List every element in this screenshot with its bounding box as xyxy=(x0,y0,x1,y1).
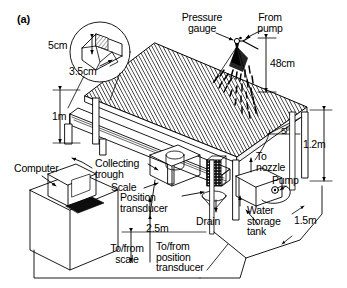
label-water-storage-tank: Water storage tank xyxy=(247,205,281,237)
label-collecting-trough: Collecting trough xyxy=(95,158,139,179)
label-position-transducer: Position transducer xyxy=(120,192,168,213)
label-1-2m: 1.2m xyxy=(303,139,326,150)
label-from-pump: From pump xyxy=(246,12,294,33)
label-pump: Pump xyxy=(272,175,299,186)
label-inset-3-5cm: 3.5cm xyxy=(69,66,97,77)
label-48cm: 48cm xyxy=(270,58,295,69)
label-inset-5cm: 5cm xyxy=(48,40,67,51)
panel-label: (a) xyxy=(17,14,30,25)
label-2-5m: 2.5m xyxy=(146,223,169,234)
nozzle-assembly xyxy=(234,37,258,49)
figure-panel-a: (a) Pressure gauge From pump 48cm 5cm 3.… xyxy=(0,0,347,288)
label-slope-5deg: 5º xyxy=(281,126,289,136)
label-to-nozzle: To nozzle xyxy=(256,151,285,172)
label-computer: Computer xyxy=(14,163,59,174)
label-to-from-scale: To/from scale xyxy=(103,243,151,264)
label-to-from-position-transducer: To/from position transducer xyxy=(156,241,204,273)
label-1-5m: 1.5m xyxy=(294,215,317,226)
label-drain: Drain xyxy=(196,216,220,227)
label-1m: 1m xyxy=(52,111,66,122)
label-pressure-gauge: Pressure gauge xyxy=(165,12,239,33)
